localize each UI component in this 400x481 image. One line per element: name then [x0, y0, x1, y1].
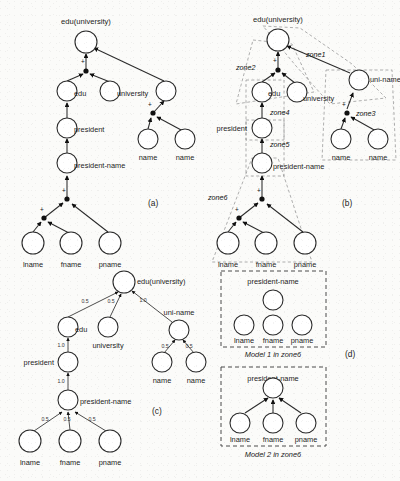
zone-label-zone2: zone2: [235, 63, 256, 72]
node-lname-b: [217, 232, 239, 254]
node-pname: [99, 232, 121, 254]
edge-uniname-to-root-a: [94, 48, 164, 81]
model1-leaf-label-3: pname: [291, 336, 314, 345]
zone-label-zone6: zone6: [207, 193, 228, 202]
model1-leaf-node-2: [263, 315, 283, 335]
zone-label-zone3: zone3: [355, 109, 376, 118]
node-edu-university-b: [267, 29, 289, 51]
node-label-uniname-c: uni-name: [164, 308, 195, 317]
edge-weight: 0.5: [41, 416, 48, 422]
model2-leaf-node-3: [296, 413, 316, 433]
edge-joint-to-uniname-b: [347, 93, 353, 109]
model1-caption: Model 1 in zone6: [245, 350, 302, 359]
node-label-name-1-c: name: [153, 376, 172, 385]
plus-sign: +: [81, 58, 85, 65]
edge-weight: 1.0: [139, 297, 146, 303]
model2-leaf-label-3: pname: [295, 435, 318, 444]
joint-marker: [259, 196, 264, 201]
model1-leaf-label-2: fname: [263, 336, 284, 345]
node-name-1: [138, 129, 158, 149]
edge-weight: 0.5: [88, 416, 95, 422]
node-label-name-1: name: [139, 153, 158, 162]
node-name-1-b: [331, 129, 351, 149]
node-fname-c: [59, 430, 81, 452]
node-lname-c: [19, 430, 41, 452]
node-name-2-b: [368, 129, 388, 149]
model2-leaf-label-2: fname: [263, 435, 284, 444]
node-label-pname-c: pname: [99, 458, 122, 467]
node-president-name-b: [252, 153, 272, 173]
node-uniname-c: [169, 320, 189, 340]
joint-marker: [83, 68, 88, 73]
edge-model2-leaf3-to-root: [279, 398, 301, 413]
node-label-pname-b: pname: [294, 260, 317, 269]
node-pname-b: [294, 232, 316, 254]
zone-label-zone5: zone5: [269, 140, 291, 149]
node-uniname: [156, 81, 176, 101]
zone-label-zone4: zone4: [269, 108, 290, 117]
model1-leaf-node-1: [234, 315, 254, 335]
node-president-b: [252, 118, 272, 138]
node-label-pname: pname: [99, 260, 122, 269]
edge-edu-to-root-c: [68, 292, 118, 317]
node-university-c: [98, 317, 118, 337]
node-name-2: [175, 129, 195, 149]
node-label-edu-c: edu: [75, 325, 87, 334]
node-name-2-c: [186, 352, 206, 372]
node-label-fname-c: fname: [60, 458, 81, 467]
plus-sign: +: [148, 101, 152, 108]
edge-name2-to-joint-b: [351, 117, 376, 131]
edge-weight: 0.5: [107, 298, 114, 304]
plus-sign: +: [273, 57, 277, 64]
node-label-fname-b: fname: [256, 260, 277, 269]
plus-sign: +: [257, 187, 261, 194]
model1-leaf-label-1: lname: [234, 336, 254, 345]
edge-lname-to-joint-b: [228, 222, 236, 232]
edge-joint4-to-joint3-b: [239, 203, 258, 218]
figure-page: + + + + edu(university) edu university p…: [0, 0, 400, 481]
node-label-edu-b: edu: [268, 89, 280, 98]
edge-name1-to-joint2-a: [148, 118, 151, 129]
node-label-university-b: university: [303, 94, 335, 103]
edge-name2-to-joint2-a: [157, 117, 183, 131]
node-fname-b: [255, 232, 277, 254]
edge-edu-to-joint-b: [262, 73, 275, 82]
panel-a: + + + + edu(university) edu university p…: [22, 17, 195, 269]
node-label-name-2-c: name: [187, 376, 206, 385]
model2-leaf-node-1: [230, 413, 250, 433]
edge-name1-to-joint-b: [341, 118, 345, 129]
edge-weight: 0.5: [161, 343, 168, 349]
node-lname: [22, 232, 44, 254]
plus-sign: +: [235, 206, 239, 213]
panel-d: president-name lname fname pname Model 1…: [221, 271, 355, 459]
edge-edu-to-joint-a: [67, 74, 83, 81]
node-fname: [60, 232, 82, 254]
joint-marker: [236, 215, 241, 220]
model1-root-node: [263, 290, 283, 310]
edge-weight: 1.0: [57, 342, 64, 348]
edge-model2-leaf1-to-root: [245, 398, 268, 413]
panel-label-b: (b): [342, 198, 352, 208]
node-label-university-c: university: [92, 341, 124, 350]
plus-sign: +: [62, 187, 66, 194]
panel-label-c: (c): [152, 406, 162, 416]
node-label-lname: lname: [23, 260, 43, 269]
node-label-fname: fname: [61, 260, 82, 269]
model1-leaf-node-3: [292, 315, 312, 335]
joint-marker: [64, 196, 69, 201]
node-edu-university: [75, 31, 97, 53]
node-uniname-b: [349, 70, 369, 90]
edge-fname-to-joint-b: [243, 222, 264, 233]
node-edu-university-c: [113, 271, 135, 293]
joint-marker: [275, 67, 280, 72]
edge-pname-to-joint3-a: [72, 204, 108, 232]
node-president-name-c: [58, 390, 78, 410]
plus-sign: +: [40, 206, 44, 213]
node-label-president-b: president: [217, 124, 247, 133]
model2-caption: Model 2 in zone6: [245, 450, 302, 459]
edge-joint4-to-joint3-a: [44, 203, 63, 218]
joint-marker: [344, 110, 349, 115]
edge-university-to-joint-a: [90, 74, 110, 82]
node-label-president-c: president: [24, 358, 54, 367]
node-label-edu-university-b: edu(university): [253, 15, 303, 24]
